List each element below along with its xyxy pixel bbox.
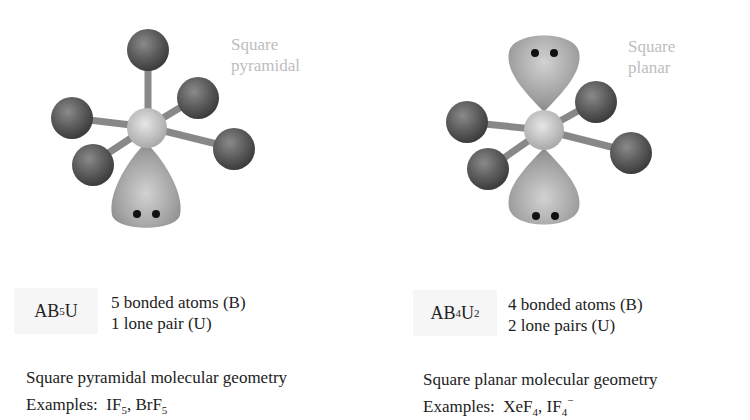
electron-dot-icon (551, 212, 559, 220)
square-pyramidal-panel: Square pyramidal AB5U 5 bonded atoms (B)… (0, 0, 375, 414)
outer-atom-top (127, 29, 169, 71)
outer-atom-right (610, 132, 652, 174)
formula-mid: U (65, 301, 78, 322)
electron-dot-icon (532, 212, 540, 220)
formula-sub2: 2 (474, 307, 480, 319)
examples-label: Examples: (423, 397, 495, 416)
lone-pairs-text: 2 lone pairs (U) (508, 315, 643, 336)
example-formula: IF5, (106, 395, 135, 414)
geometry-summary: Square planar molecular geometry Example… (423, 369, 658, 420)
outer-atom-back-right (575, 81, 617, 123)
example-formula: IF4− (547, 397, 574, 416)
central-atom (524, 110, 564, 150)
geometry-label: Square planar (628, 36, 675, 78)
outer-atom-left (446, 101, 488, 143)
outer-atom-left (51, 97, 93, 139)
electron-dot-icon (550, 49, 558, 57)
outer-atom-right (213, 128, 255, 170)
geometry-title: Square pyramidal molecular geometry (26, 367, 287, 388)
example-formula: BrF5 (135, 395, 167, 414)
outer-atom-front-left (467, 148, 509, 190)
electron-dot-icon (531, 49, 539, 57)
geometry-label-line1: Square (231, 34, 300, 55)
examples-line: Examples: XeF4, IF4− (423, 390, 658, 420)
formula-base: AB (430, 303, 455, 324)
lone-pair-lobe-top (508, 36, 579, 113)
bonded-atoms-text: 5 bonded atoms (B) (111, 292, 246, 313)
formula-label: AB5U (14, 288, 98, 334)
lone-pairs-text: 1 lone pair (U) (111, 313, 246, 334)
outer-atom-front-left (72, 144, 114, 186)
geometry-label: Square pyramidal (231, 34, 300, 76)
central-atom (127, 108, 167, 148)
electron-dot-icon (152, 210, 160, 218)
examples-line: Examples: IF5, BrF5 (26, 388, 287, 420)
formula-base: AB (34, 301, 59, 322)
electron-domain-description: 4 bonded atoms (B) 2 lone pairs (U) (508, 294, 643, 336)
formula-mid: U (461, 303, 474, 324)
electron-dot-icon (133, 210, 141, 218)
geometry-label-line2: planar (628, 57, 675, 78)
outer-atom-back-right (177, 77, 219, 119)
lone-pair-lobe-bottom (508, 148, 579, 225)
electron-domain-description: 5 bonded atoms (B) 1 lone pair (U) (111, 292, 246, 334)
square-planar-molecule-model (375, 0, 750, 250)
square-pyramidal-molecule-model (0, 0, 375, 250)
geometry-summary: Square pyramidal molecular geometry Exam… (26, 367, 287, 420)
geometry-label-line2: pyramidal (231, 55, 300, 76)
bonded-atoms-text: 4 bonded atoms (B) (508, 294, 643, 315)
geometry-label-line1: Square (628, 36, 675, 57)
example-formula: XeF4, (503, 397, 546, 416)
square-planar-panel: Square planar AB4U2 4 bonded atoms (B) 2… (375, 0, 750, 414)
examples-label: Examples: (26, 395, 98, 414)
lone-pair-lobe (111, 142, 180, 228)
formula-label: AB4U2 (413, 290, 497, 336)
geometry-title: Square planar molecular geometry (423, 369, 658, 390)
